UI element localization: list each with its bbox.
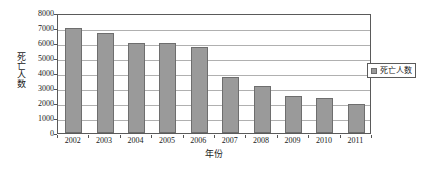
x-axis-tick-label: 2005 [159, 136, 175, 145]
x-axis-tick-label: 2008 [253, 136, 269, 145]
y-axis-tick-label: 3000 [28, 85, 54, 93]
bar-slot [58, 15, 89, 133]
x-axis-tick-mark [277, 135, 278, 138]
x-axis-tick-mark [340, 135, 341, 138]
bar[interactable] [97, 33, 114, 134]
bars-layer [58, 15, 370, 133]
bar[interactable] [285, 96, 302, 134]
y-axis-tick-label: 6000 [28, 40, 54, 48]
x-axis-tick-label: 2011 [347, 136, 363, 145]
bar[interactable] [316, 98, 333, 133]
bar[interactable] [254, 86, 271, 133]
bar-slot [246, 15, 277, 133]
x-axis-tick-label: 2007 [222, 136, 238, 145]
x-axis-tick-label: 2004 [128, 136, 144, 145]
y-axis-tick-label: 7000 [28, 25, 54, 33]
legend: 死亡人数 [367, 63, 416, 78]
x-axis-title: 年份 [57, 149, 371, 160]
plot-area [57, 14, 371, 134]
x-axis-tick-mark [183, 135, 184, 138]
y-axis-tick-label: 8000 [28, 10, 54, 18]
bar-slot [89, 15, 120, 133]
y-axis-tick-label: 5000 [28, 55, 54, 63]
x-axis-tick-mark [120, 135, 121, 138]
bar[interactable] [222, 77, 239, 133]
x-axis-tick-label: 2009 [285, 136, 301, 145]
x-axis-tick-label: 2010 [316, 136, 332, 145]
x-axis-tick-mark [88, 135, 89, 138]
x-axis-tick-label: 2006 [190, 136, 206, 145]
x-axis-tick-labels: 2002200320042005200620072008200920102011 [57, 135, 371, 149]
legend-swatch-icon [371, 68, 377, 74]
x-axis-tick-label: 2002 [65, 136, 81, 145]
x-axis-tick-label: 2003 [96, 136, 112, 145]
legend-label: 死亡人数 [380, 66, 412, 75]
bar-slot [184, 15, 215, 133]
bar[interactable] [159, 43, 176, 133]
y-axis-tick-label: 1000 [28, 115, 54, 123]
bar-slot [121, 15, 152, 133]
x-axis-tick-mark [245, 135, 246, 138]
y-axis-title: 死亡人数 [14, 30, 28, 110]
x-axis-tick-mark [214, 135, 215, 138]
x-axis-tick-mark [151, 135, 152, 138]
x-axis-tick-mark [308, 135, 309, 138]
bar[interactable] [191, 47, 208, 133]
bar-slot [152, 15, 183, 133]
y-axis-tick-label: 0 [28, 130, 54, 138]
bar-slot [278, 15, 309, 133]
y-axis-tick-labels: 010002000300040005000600070008000 [28, 14, 54, 135]
bar-slot [215, 15, 246, 133]
bar[interactable] [128, 43, 145, 133]
x-axis-tick-mark [371, 135, 372, 138]
bar-chart: 死亡人数 010002000300040005000600070008000 2… [0, 0, 443, 177]
bar-slot [309, 15, 340, 133]
bar[interactable] [65, 28, 82, 133]
x-axis-tick-mark [57, 135, 58, 138]
y-axis-tick-label: 4000 [28, 70, 54, 78]
bar[interactable] [348, 104, 365, 133]
y-axis-tick-label: 2000 [28, 100, 54, 108]
